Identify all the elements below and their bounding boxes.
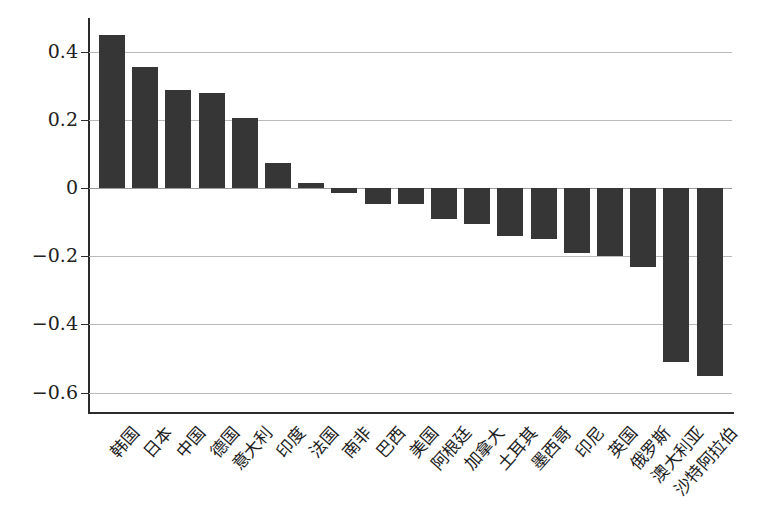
plot-area xyxy=(88,18,732,413)
bar[interactable] xyxy=(597,188,623,256)
bar[interactable] xyxy=(564,188,590,253)
gridline xyxy=(88,393,732,394)
x-axis-label: 印尼 xyxy=(568,420,609,462)
bar[interactable] xyxy=(398,188,424,203)
y-tick-mark xyxy=(81,188,89,189)
gridline xyxy=(88,324,732,325)
y-tick-label: 0 xyxy=(66,178,78,197)
bar[interactable] xyxy=(365,188,391,203)
chart-page: 0.40.20−0.2−0.4−0.6 韩国日本中国德国意大利印度法国南非巴西美… xyxy=(0,0,757,530)
bar[interactable] xyxy=(199,93,225,188)
y-tick-label: −0.6 xyxy=(32,383,78,402)
bar[interactable] xyxy=(165,90,191,189)
bar[interactable] xyxy=(497,188,523,236)
bar[interactable] xyxy=(630,188,656,266)
bar[interactable] xyxy=(298,183,324,188)
y-tick-mark xyxy=(81,324,89,325)
gridline xyxy=(88,52,732,53)
bar[interactable] xyxy=(531,188,557,239)
bar[interactable] xyxy=(663,188,689,362)
bar[interactable] xyxy=(697,188,723,375)
bar[interactable] xyxy=(265,163,291,189)
y-axis-tick-labels: 0.40.20−0.2−0.4−0.6 xyxy=(0,0,78,530)
bar[interactable] xyxy=(232,118,258,188)
bar[interactable] xyxy=(331,188,357,193)
y-tick-mark xyxy=(81,393,89,394)
bar[interactable] xyxy=(464,188,490,224)
x-axis-category-labels: 韩国日本中国德国意大利印度法国南非巴西美国阿根廷加拿大土耳其墨西哥印尼英国俄罗斯… xyxy=(88,414,748,530)
y-tick-label: 0.4 xyxy=(48,42,78,61)
bar[interactable] xyxy=(99,35,125,188)
y-tick-mark xyxy=(81,120,89,121)
bar[interactable] xyxy=(132,67,158,188)
x-axis-label: 中国 xyxy=(170,420,211,462)
bar[interactable] xyxy=(431,188,457,219)
y-tick-mark xyxy=(81,52,89,53)
y-tick-label: 0.2 xyxy=(48,110,78,129)
y-tick-label: −0.4 xyxy=(32,314,78,333)
y-tick-mark xyxy=(81,256,89,257)
x-axis-label: 巴西 xyxy=(369,420,410,462)
x-axis-label: 南非 xyxy=(336,420,377,462)
y-tick-label: −0.2 xyxy=(32,246,78,265)
